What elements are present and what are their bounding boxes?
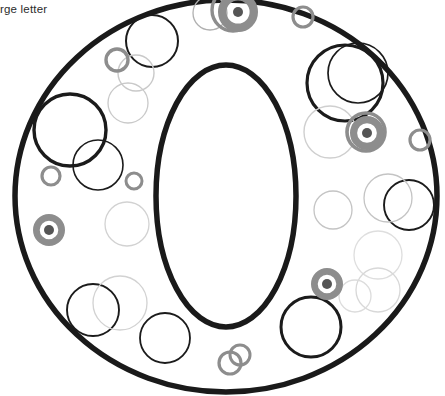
donut-center-dot [362,128,372,138]
worksheet-canvas: he large letter ous r on [0,0,445,396]
donut-center-dot [322,279,332,289]
donut-center-dot [233,7,243,17]
letter-o-artwork [0,0,445,396]
letter-o-inner-counter [156,65,296,327]
donut-center-dot [44,225,54,235]
